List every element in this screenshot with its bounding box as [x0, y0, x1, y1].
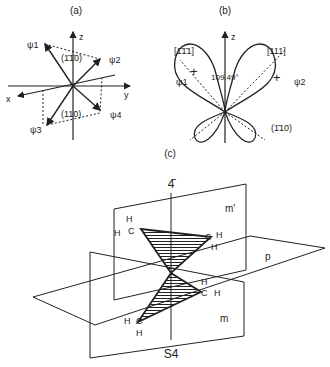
small-lobe-left — [194, 112, 225, 142]
psi4-label: ψ4 — [110, 110, 121, 120]
bottom-axis-label: S4 — [164, 347, 179, 361]
panel-b-label: (b) — [219, 5, 231, 16]
panel-c-label: (c) — [164, 148, 176, 159]
angle-label: 109.49° — [211, 73, 239, 82]
psi3-label: ψ3 — [30, 125, 41, 135]
c-atom-2: C — [205, 232, 212, 242]
orbital-label-2: ψ2 — [294, 77, 305, 87]
small-lobe-right — [225, 112, 256, 142]
h-atom-7: H — [124, 316, 131, 326]
psi2-vector — [73, 59, 100, 86]
panel-a: (a) z y x ψ1 ψ2 ψ3 ψ4 (1̄1̄0) (110) — [6, 5, 130, 140]
dir-3 — [190, 112, 225, 140]
h-atom-3: H — [216, 230, 223, 240]
panel-b: (b) z + + [1̄1̄1] [111] 109.49° ψ1 ψ2 (1… — [174, 5, 305, 143]
h-atom-5: H — [201, 277, 208, 287]
c-atom-1: C — [128, 226, 135, 236]
c-atom-3: C — [201, 288, 208, 298]
plus-right: + — [273, 70, 281, 85]
h-atom-6: H — [214, 288, 221, 298]
upper-ch2-plane — [141, 229, 211, 273]
psi3-vector — [47, 86, 73, 125]
c-atom-4: C — [136, 316, 143, 326]
psi1-label: ψ1 — [27, 40, 38, 50]
figure-canvas: (a) z y x ψ1 ψ2 ψ3 ψ4 (1̄1̄0) (110) (b) … — [0, 0, 330, 367]
plus-left: + — [190, 64, 198, 79]
h-atom-4: H — [211, 242, 218, 252]
lower-ch2-plane — [138, 273, 201, 322]
plane-label-2: (110) — [61, 109, 81, 119]
h-atom-2: H — [114, 228, 121, 238]
z-axis-label: z — [79, 32, 84, 42]
plane-label-p: p — [265, 251, 271, 262]
dir-label-2: [111] — [267, 46, 286, 56]
plane-label-b: (1̄10) — [271, 123, 292, 133]
y-axis-label: y — [124, 90, 129, 100]
panel-a-label: (a) — [70, 5, 82, 16]
x-axis-label: x — [6, 94, 11, 104]
plane-label-1: (1̄1̄0) — [61, 53, 82, 63]
h-atom-8: H — [136, 328, 143, 338]
psi2-label: ψ2 — [109, 55, 120, 65]
dir-label-1: [1̄1̄1] — [174, 46, 194, 56]
psi4-vector — [73, 86, 100, 110]
plane-label-m-prime: m' — [225, 203, 235, 214]
b-z-label: z — [231, 32, 236, 42]
top-axis-label: 4̄ — [168, 177, 177, 191]
panel-c: (c) 4̄ C H H C H H C H H C H H m' p m S4 — [33, 148, 325, 361]
orbital-label-1: ψ1 — [176, 77, 187, 87]
h-atom-1: H — [126, 214, 133, 224]
plane-label-m: m — [220, 313, 228, 324]
